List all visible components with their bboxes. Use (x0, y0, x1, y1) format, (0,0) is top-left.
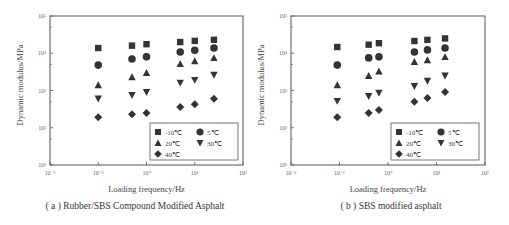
x-tick-label: 10⁻² (45, 170, 56, 176)
x-axis-label-b: Loading frequency/Hz (291, 184, 485, 194)
data-point (177, 80, 184, 87)
series-20c (334, 53, 449, 88)
data-point (411, 48, 419, 56)
data-point (143, 89, 150, 96)
data-point (143, 53, 151, 61)
legend-marker-icon (396, 129, 402, 135)
data-point (94, 61, 102, 69)
data-point (424, 78, 431, 85)
data-point (411, 38, 417, 44)
data-point (177, 39, 183, 45)
y-tick-label: 10⁴ (279, 50, 287, 56)
x-tick-label: 10⁻² (286, 170, 297, 176)
data-point (95, 96, 102, 103)
data-point (411, 58, 418, 65)
y-tick-label: 10⁵ (279, 13, 287, 19)
data-point (128, 55, 136, 63)
data-point (191, 47, 199, 55)
data-point (441, 72, 448, 79)
data-point (441, 88, 449, 96)
data-point (177, 60, 184, 67)
series-5c (94, 44, 217, 69)
data-point (176, 48, 184, 56)
data-point (128, 73, 135, 80)
data-point (365, 41, 371, 47)
legend-label: -10℃ (406, 129, 423, 137)
data-point (128, 110, 136, 118)
caption-b: ( b ) SBS modified asphalt (271, 201, 509, 211)
legend-label: 40℃ (165, 151, 180, 159)
legend-label: 40℃ (406, 151, 421, 159)
data-point (210, 44, 218, 52)
data-point (423, 94, 431, 102)
data-point (176, 103, 184, 111)
legend-label: 30℃ (448, 140, 463, 148)
data-point (410, 98, 418, 106)
series-20c (95, 54, 218, 88)
chart-panel-b: 10¹10²10³10⁴10⁵10⁻²10⁻¹10⁰10¹10²-10℃5℃20… (241, 0, 495, 225)
data-point (192, 38, 198, 44)
series-40c (94, 95, 218, 122)
data-point (191, 77, 198, 84)
data-point (334, 98, 341, 105)
series--10c (334, 35, 448, 50)
data-point (365, 72, 372, 79)
data-point (365, 109, 373, 117)
data-point (143, 41, 149, 47)
data-point (191, 100, 199, 108)
legend-label: 5℃ (207, 129, 219, 137)
legend-label: 30℃ (207, 140, 222, 148)
series-5c (333, 44, 448, 69)
legend: -10℃5℃20℃30℃40℃ (391, 123, 479, 160)
y-axis-label-b: Dynamic modulus/MPa (256, 35, 266, 135)
data-point (333, 113, 341, 121)
x-tick-label: 10⁰ (384, 170, 393, 176)
data-point (95, 81, 102, 88)
data-point (365, 54, 373, 62)
y-tick-label: 10¹ (279, 162, 287, 168)
x-tick-label: 10¹ (433, 170, 441, 176)
legend-label: 5℃ (448, 129, 460, 137)
caption-a: ( a ) Rubber/SBS Compound Modified Aspha… (15, 201, 255, 211)
data-point (191, 57, 198, 64)
x-tick-label: 10⁻¹ (93, 170, 104, 176)
data-point (143, 69, 150, 76)
data-point (424, 46, 432, 54)
x-tick-label: 10⁻¹ (334, 170, 345, 176)
data-point (210, 95, 218, 103)
data-point (375, 67, 382, 74)
data-point (375, 106, 383, 114)
chart-panel-a: 10¹10²10³10⁴10⁵10⁻²10⁻¹10⁰10¹10²-10℃5℃20… (0, 0, 254, 225)
data-point (365, 93, 372, 100)
data-point (375, 53, 383, 61)
data-point (375, 90, 382, 97)
data-point (411, 83, 418, 90)
data-point (211, 37, 217, 43)
data-point (424, 37, 430, 43)
data-point (128, 92, 135, 99)
data-point (334, 81, 341, 88)
x-tick-label: 10² (481, 170, 489, 176)
data-point (94, 113, 102, 121)
data-point (95, 45, 101, 51)
data-point (334, 44, 340, 50)
data-point (129, 42, 135, 48)
legend-label: 20℃ (165, 140, 180, 148)
data-point (333, 61, 341, 69)
legend-label: 20℃ (406, 140, 421, 148)
data-point (376, 40, 382, 46)
y-tick-label: 10² (279, 125, 287, 131)
series-30c (334, 72, 449, 104)
data-point (143, 109, 151, 117)
data-point (441, 53, 448, 60)
data-point (210, 72, 217, 79)
data-point (210, 54, 217, 61)
legend-marker-icon (155, 129, 161, 135)
x-tick-label: 10⁰ (143, 170, 152, 176)
y-tick-label: 10³ (38, 88, 46, 94)
y-tick-label: 10¹ (38, 162, 46, 168)
series--10c (95, 37, 217, 52)
legend-marker-icon (196, 128, 203, 135)
y-axis-label-a: Dynamic modulus/MPa (15, 35, 25, 135)
data-point (424, 56, 431, 63)
